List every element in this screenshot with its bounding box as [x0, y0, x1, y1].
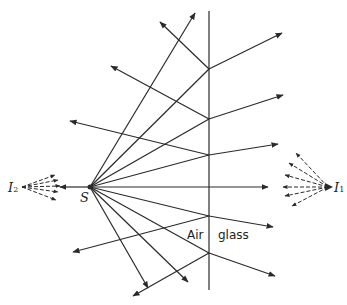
reflected-ray-6: [133, 253, 209, 296]
ray-direct-down-1: [90, 187, 188, 282]
incident-ray-2: [90, 119, 209, 187]
virtual-image-I1-fan: [283, 153, 328, 206]
label-source: S: [80, 190, 89, 205]
label-image-I1: I1: [334, 180, 344, 195]
label-I1-sub: 1: [339, 185, 344, 194]
reflected-ray-2: [111, 66, 209, 119]
incident-ray-5: [90, 187, 209, 216]
label-air: Air: [187, 228, 203, 242]
refracted-ray-6: [209, 253, 275, 276]
label-glass: glass: [218, 228, 249, 242]
refracted-ray-5: [209, 216, 273, 227]
refracted-ray-1: [209, 33, 282, 69]
reflected-ray-1: [160, 22, 209, 69]
source-point: [88, 185, 93, 190]
ray-diagram: [0, 0, 347, 305]
incident-ray-3: [90, 155, 209, 187]
reflected-ray-3: [70, 121, 209, 155]
label-image-I2: I2: [8, 180, 18, 195]
refracted-ray-3: [209, 144, 278, 155]
virtual-image-I2-fan: [22, 175, 60, 200]
label-I2-sub: 2: [13, 185, 18, 194]
ray-direct-up: [90, 13, 195, 187]
ray-direct-down-2: [90, 187, 148, 288]
refracted-ray-2: [209, 95, 283, 119]
